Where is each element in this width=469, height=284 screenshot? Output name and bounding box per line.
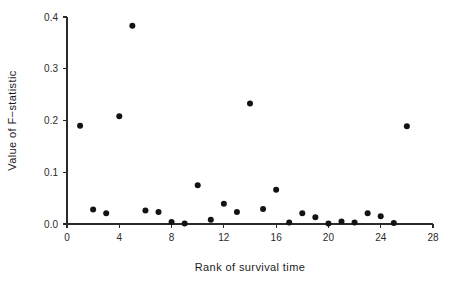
data-point <box>182 220 188 226</box>
data-point <box>234 209 240 215</box>
x-tick-label: 24 <box>375 232 387 243</box>
data-point <box>325 220 331 226</box>
data-point <box>169 219 175 225</box>
data-point <box>378 213 384 219</box>
data-point <box>312 214 318 220</box>
data-point <box>352 219 358 225</box>
data-point <box>208 217 214 223</box>
data-point <box>156 209 162 215</box>
y-tick-label: 0.0 <box>44 219 58 230</box>
axes-group <box>66 17 433 224</box>
data-point-group <box>77 23 410 227</box>
data-point <box>116 113 122 119</box>
x-tick-label: 16 <box>271 232 283 243</box>
plot-canvas: 04812162024280.00.10.20.30.4Rank of surv… <box>0 0 469 284</box>
data-point <box>273 187 279 193</box>
x-tick-label: 4 <box>117 232 123 243</box>
data-point <box>260 206 266 212</box>
data-point <box>103 210 109 216</box>
y-tick-label: 0.4 <box>44 12 58 23</box>
y-axis-ticks: 0.00.10.20.30.4 <box>44 12 67 230</box>
data-point <box>195 182 201 188</box>
data-point <box>286 219 292 225</box>
y-tick-label: 0.3 <box>44 63 58 74</box>
data-point <box>391 220 397 226</box>
x-tick-label: 8 <box>169 232 175 243</box>
data-point <box>404 123 410 129</box>
data-point <box>142 208 148 214</box>
data-point <box>90 207 96 213</box>
x-tick-label: 0 <box>64 232 70 243</box>
data-point <box>129 23 135 29</box>
x-tick-label: 28 <box>427 232 439 243</box>
y-tick-label: 0.1 <box>44 167 58 178</box>
data-point <box>221 201 227 207</box>
y-axis-title: Value of F−statistic <box>6 70 18 171</box>
x-axis-title: Rank of survival time <box>195 261 306 273</box>
x-tick-label: 20 <box>323 232 335 243</box>
data-point <box>365 210 371 216</box>
scatter-plot-figure: 04812162024280.00.10.20.30.4Rank of surv… <box>0 0 469 284</box>
data-point <box>247 100 253 106</box>
x-axis-ticks: 0481216202428 <box>64 224 439 243</box>
x-tick-label: 12 <box>218 232 230 243</box>
data-point <box>77 123 83 129</box>
data-point <box>339 218 345 224</box>
data-point <box>299 210 305 216</box>
y-tick-label: 0.2 <box>44 115 58 126</box>
